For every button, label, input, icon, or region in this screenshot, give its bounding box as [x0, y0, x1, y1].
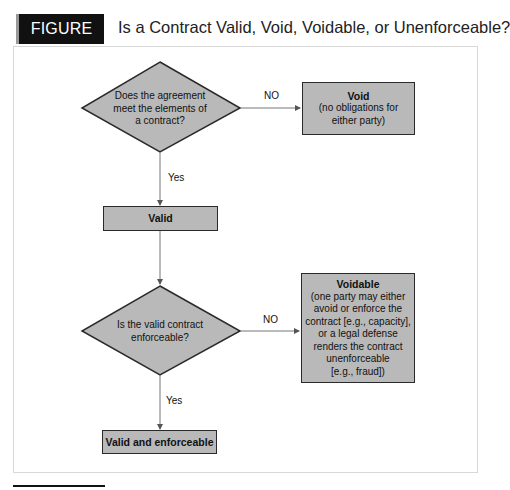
edge-label-q2-no: NO	[263, 314, 278, 325]
node-valid: Valid	[103, 206, 218, 231]
edge-label-q2-yes: Yes	[166, 395, 182, 406]
node-voidable: Voidable (one party may either avoid or …	[301, 273, 415, 383]
decision-text-elements: Does the agreement meet the elements of …	[100, 90, 220, 128]
edge-label-q1-yes: Yes	[168, 172, 184, 183]
edge-label-q1-no: NO	[264, 90, 279, 101]
footnote-rule	[13, 485, 105, 487]
decision-text-enforceable: Is the valid contract enforceable?	[100, 319, 220, 344]
node-valid-and-enforceable: Valid and enforceable	[102, 430, 217, 454]
node-void: Void (no obligations for either party)	[302, 82, 415, 135]
